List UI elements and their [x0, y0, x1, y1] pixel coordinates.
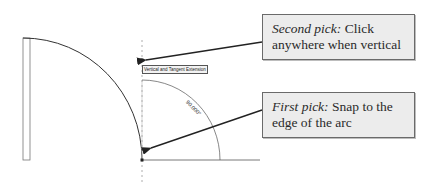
snap-tooltip: Vertical and Tangent Extension — [142, 65, 208, 74]
callout-emphasis: Second pick: — [272, 21, 341, 36]
snap-point-bottom — [141, 159, 144, 162]
callout-second-pick: Second pick: Click anywhere when vertica… — [262, 14, 415, 60]
angle-dimension-arc — [142, 80, 220, 160]
callout-first-pick: First pick: Snap to the edge of the arc — [262, 92, 415, 138]
snap-point-top — [141, 59, 144, 62]
callout-emphasis: First pick: — [272, 99, 329, 114]
arrow-second-pick — [146, 42, 262, 60]
door-jamb — [23, 38, 30, 160]
door-swing-arc — [23, 38, 142, 160]
arrow-first-pick — [151, 110, 262, 148]
